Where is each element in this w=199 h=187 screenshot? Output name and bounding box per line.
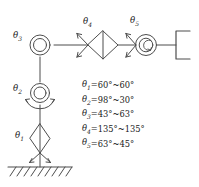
- theta2-arrowhead-right: [51, 99, 55, 103]
- range-row: θ2=98°~30°: [82, 93, 156, 108]
- joint-range-list: θ1=60°~60° θ2=98°~30° θ3=43°~63° θ4=135°…: [82, 78, 156, 151]
- theta5-inner-rotation-arc: [144, 40, 151, 50]
- label-theta4: θ4: [83, 17, 92, 28]
- theta2-joint-outer-circle: [31, 84, 50, 103]
- theta1-arrow-left-shaft: [30, 153, 41, 163]
- theta4-arrow-lower-shaft: [77, 45, 88, 57]
- theta5-joint-outer-circle: [136, 35, 157, 56]
- theta5-arrow-upper-shaft: [126, 34, 136, 46]
- theta2-joint-inner-circle: [34, 87, 46, 99]
- theta3-joint-inner-circle: [34, 39, 47, 52]
- label-theta5: θ5: [130, 16, 139, 27]
- label-theta1: θ1: [15, 131, 24, 142]
- theta2-arrowhead-left: [26, 99, 30, 103]
- theta1-arrow-right-shaft: [40, 153, 51, 163]
- range-row: θ5=63°~45°: [82, 136, 156, 151]
- label-theta3: θ3: [13, 31, 22, 42]
- range-row: θ1=60°~60°: [82, 78, 156, 93]
- range-row: θ3=43°~63°: [82, 107, 156, 122]
- ground-hatching: [10, 167, 72, 176]
- label-theta2: θ2: [13, 84, 22, 95]
- theta5-inner-arrowhead: [148, 47, 151, 50]
- theta5-arrow-lower-shaft: [126, 45, 136, 57]
- gripper-bracket: [176, 31, 190, 59]
- theta4-arrow-upper-shaft: [77, 34, 88, 46]
- range-row: θ4=135°~135°: [82, 122, 156, 137]
- figure-canvas: θ3 θ2 θ1 θ4 θ5 θ1=60°~60° θ2=98°~30° θ3=…: [0, 0, 199, 187]
